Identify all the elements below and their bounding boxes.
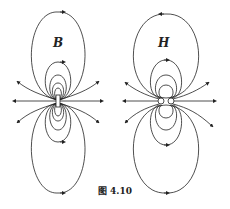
h-field-label: H — [157, 36, 170, 50]
field-line-figure: B H — [0, 0, 230, 209]
figure-caption: 图 4.10 — [0, 184, 230, 197]
b-field-label: B — [52, 36, 63, 50]
h-field-panel — [124, 14, 215, 193]
